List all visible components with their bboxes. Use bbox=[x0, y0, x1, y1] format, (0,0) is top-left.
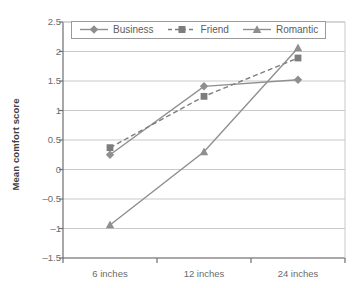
x-tick-label-2: 24 inches bbox=[278, 269, 319, 279]
data-point-business-2 bbox=[294, 76, 302, 84]
data-point-friend-0 bbox=[107, 144, 114, 151]
legend-marker-diamond-icon bbox=[90, 25, 99, 34]
data-point-romantic-2 bbox=[294, 44, 302, 52]
legend-item-friend[interactable]: Friend bbox=[167, 24, 229, 35]
legend-swatch-diamond-icon bbox=[79, 24, 109, 35]
legend-label: Business bbox=[113, 25, 154, 35]
x-tick-label-1: 12 inches bbox=[184, 269, 225, 279]
series-lines bbox=[110, 48, 298, 225]
data-point-friend-1 bbox=[201, 93, 208, 100]
line-chart-figure: Mean comfort score 2.521.510.50–0.5–1–1.… bbox=[0, 0, 357, 288]
legend-label: Romantic bbox=[276, 25, 318, 35]
grid-lines bbox=[63, 22, 345, 258]
series-line-romantic bbox=[110, 48, 298, 225]
legend-marker-square-icon bbox=[178, 26, 185, 33]
legend-item-romantic[interactable]: Romantic bbox=[242, 24, 318, 35]
legend-swatch-square-icon bbox=[167, 24, 197, 35]
legend-swatch-triangle-icon bbox=[242, 24, 272, 35]
x-tick-label-0: 6 inches bbox=[92, 269, 127, 279]
chart-legend: BusinessFriendRomantic bbox=[71, 21, 326, 39]
x-axis-ticks bbox=[63, 258, 345, 263]
legend-item-business[interactable]: Business bbox=[79, 24, 154, 35]
plot-area bbox=[0, 0, 357, 288]
data-point-friend-2 bbox=[295, 55, 302, 62]
legend-label: Friend bbox=[201, 25, 229, 35]
data-point-romantic-0 bbox=[106, 221, 114, 229]
series-line-business bbox=[110, 80, 298, 155]
